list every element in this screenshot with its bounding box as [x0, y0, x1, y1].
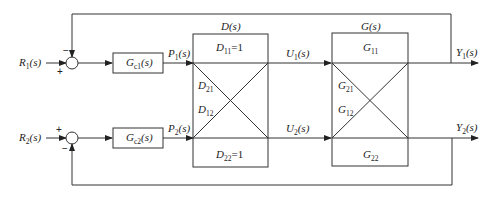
plant-title: G(s) [361, 21, 381, 32]
decoupler-d22: D22=1 [216, 149, 243, 163]
signal-u2-label: U2(s) [286, 123, 309, 137]
output-y2-label: Y2(s) [456, 122, 477, 136]
decoupler-d11: D11=1 [216, 42, 243, 56]
signal-p2-label: P2(s) [168, 123, 190, 137]
diagram-lines [0, 0, 497, 200]
controller-gc1-label: Gc1(s) [126, 57, 153, 71]
decoupler-d12: D12 [198, 104, 213, 118]
plant-g22: G22 [363, 149, 378, 163]
sum1-plus-sign: + [57, 67, 63, 77]
input-r2-label: R2(s) [19, 132, 41, 146]
controller-gc2-label: Gc2(s) [126, 132, 153, 146]
plant-g21: G21 [338, 80, 353, 94]
sum2-plus-sign: + [56, 125, 62, 135]
plant-g12: G12 [338, 104, 353, 118]
decoupler-d21: D21 [198, 80, 213, 94]
block-diagram: R1(s) R2(s) − + + − Gc1(s) Gc2(s) P1(s) … [0, 0, 497, 200]
decoupler-title: D(s) [221, 21, 241, 32]
plant-g11: G11 [363, 42, 378, 56]
sum2-minus-sign: − [62, 144, 68, 154]
sum1-minus-sign: − [63, 46, 69, 56]
output-y1-label: Y1(s) [456, 47, 477, 61]
summing-junction-1 [66, 57, 78, 69]
input-r1-label: R1(s) [19, 57, 41, 71]
signal-p1-label: P1(s) [168, 48, 190, 62]
signal-u1-label: U1(s) [286, 48, 309, 62]
